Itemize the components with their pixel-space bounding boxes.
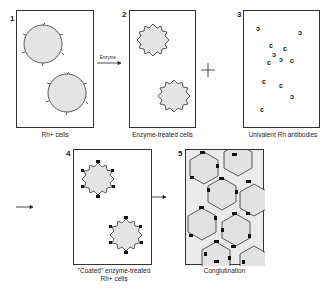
- antibody-fragments: ɔ ɔ c c ɔ ɔ c c c c ɔ c: [256, 25, 302, 113]
- panel-3-univalent-antibodies: ɔ ɔ c c ɔ ɔ c c c c ɔ c: [243, 10, 320, 128]
- svg-text:ɔ: ɔ: [256, 25, 260, 32]
- panel-4-caption-line2: Rh+ cells: [70, 275, 158, 283]
- coated-cells-illustration: [74, 150, 153, 266]
- conglutination-lattice-illustration: [186, 150, 265, 266]
- svg-text:c: c: [262, 78, 266, 85]
- panel-4-coated-enzyme-treated-cells: [73, 149, 152, 265]
- panel-5-caption: Conglutination: [185, 267, 264, 275]
- panel-1-number: 1: [10, 14, 14, 23]
- panel-1-rh-positive-cells: [16, 10, 94, 128]
- rh-positive-cells-illustration: [17, 11, 95, 129]
- svg-text:ɔ: ɔ: [298, 29, 302, 36]
- panel-2-enzyme-treated-cells: [129, 10, 196, 128]
- svg-text:ɔ: ɔ: [272, 51, 276, 58]
- svg-text:c: c: [279, 82, 283, 89]
- svg-text:c: c: [260, 106, 264, 113]
- panel-3-number: 3: [237, 10, 241, 19]
- enzyme-arrow-label: Enzyme: [96, 54, 120, 62]
- svg-text:c: c: [290, 57, 294, 64]
- panel-5-number: 5: [178, 149, 182, 158]
- svg-text:c: c: [267, 59, 271, 66]
- panel-4-number: 4: [66, 149, 70, 158]
- panel-2-number: 2: [122, 10, 126, 19]
- panel-2-caption: Enzyme-treated cells: [120, 131, 205, 139]
- panel-1-caption: Rh+ cells: [16, 131, 94, 139]
- panel-4-caption-line1: "Coated" enzyme-treated: [70, 267, 158, 275]
- panel-5-conglutination: [185, 149, 264, 265]
- svg-text:c: c: [269, 42, 273, 49]
- svg-text:ɔ: ɔ: [290, 93, 294, 100]
- panel-3-caption: Univalent Rh antibodies: [238, 131, 328, 139]
- enzyme-treated-cells-illustration: [130, 11, 197, 129]
- univalent-antibodies-illustration: ɔ ɔ c c ɔ ɔ c c c c ɔ c: [244, 11, 321, 129]
- svg-text:ɔ: ɔ: [279, 56, 283, 63]
- svg-text:c: c: [283, 45, 287, 52]
